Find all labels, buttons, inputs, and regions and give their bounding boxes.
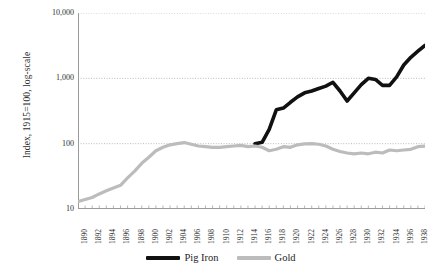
x-tick-label-1908: 1908 (208, 229, 216, 244)
x-tick-label-1934: 1934 (393, 229, 401, 244)
legend-entry-pig-iron[interactable]: Pig Iron (146, 252, 218, 263)
x-tick-label-1922: 1922 (308, 229, 316, 244)
axis-lines (78, 13, 425, 209)
x-tick-label-1898: 1898 (138, 229, 146, 244)
x-tick-label-1918: 1918 (279, 229, 287, 244)
legend-swatch-pig-iron (146, 256, 180, 260)
x-tick-label-1912: 1912 (237, 229, 245, 244)
legend-label-gold: Gold (275, 252, 296, 263)
x-tick-label-1936: 1936 (407, 229, 415, 244)
y-tick-label-10000: 10,000 (30, 9, 74, 17)
plot-area (78, 13, 425, 209)
x-tick-label-1914: 1914 (251, 229, 259, 244)
x-tick-label-1924: 1924 (322, 229, 330, 244)
series-lines (78, 45, 425, 201)
x-tick-label-1930: 1930 (364, 229, 372, 244)
series-line-pig-iron (255, 45, 425, 143)
x-tick-label-1910: 1910 (223, 229, 231, 244)
x-axis-tick-labels: 1890189218941896189819001902190419061908… (78, 212, 425, 256)
x-tick-label-1932: 1932 (378, 229, 386, 244)
y-tick-label-100: 100 (30, 140, 74, 148)
x-tick-label-1926: 1926 (336, 229, 344, 244)
x-tick-label-1916: 1916 (265, 229, 273, 244)
y-tick-label-10: 10 (30, 205, 74, 213)
x-tick-label-1902: 1902 (166, 229, 174, 244)
x-tick-label-1904: 1904 (180, 229, 188, 244)
gridlines (78, 13, 425, 209)
chart-plot-svg (78, 13, 425, 209)
y-axis-tick-labels: 101001,00010,000 (26, 0, 74, 276)
x-tick-label-1906: 1906 (194, 229, 202, 244)
chart-container: Index, 1915=100, log-scale 101001,00010,… (0, 0, 442, 276)
legend-entry-gold[interactable]: Gold (237, 252, 296, 263)
legend-swatch-gold (237, 256, 271, 260)
x-tick-label-1894: 1894 (109, 229, 117, 244)
x-tick-label-1890: 1890 (81, 229, 89, 244)
x-tick-label-1896: 1896 (123, 229, 131, 244)
x-tick-label-1920: 1920 (293, 229, 301, 244)
chart-legend: Pig IronGold (0, 252, 442, 263)
x-tick-label-1900: 1900 (152, 229, 160, 244)
x-tick-label-1892: 1892 (95, 229, 103, 244)
x-tick-label-1938: 1938 (421, 229, 429, 244)
x-tick-label-1928: 1928 (350, 229, 358, 244)
y-tick-label-1000: 1,000 (30, 74, 74, 82)
series-line-gold (78, 143, 425, 202)
legend-label-pig-iron: Pig Iron (184, 252, 218, 263)
